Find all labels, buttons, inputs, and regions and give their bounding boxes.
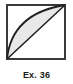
- figure-container: Ex. 36: [0, 0, 73, 84]
- caption: Ex. 36: [0, 66, 73, 84]
- geometry-diagram: [0, 0, 73, 66]
- caption-label: Ex. 36: [23, 71, 50, 80]
